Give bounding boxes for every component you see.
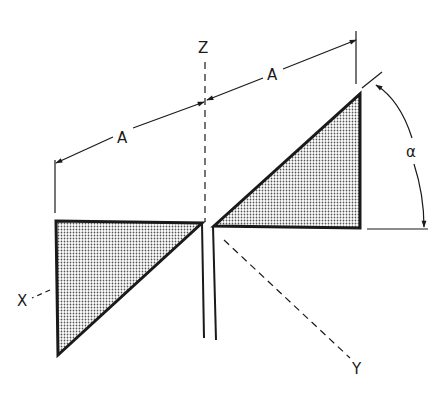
y-axis-label: Y bbox=[351, 360, 362, 378]
dimension-left-label: A bbox=[117, 129, 128, 147]
y-axis: Y bbox=[224, 240, 362, 378]
x-axis: X bbox=[17, 290, 50, 310]
dimension-right: A bbox=[207, 40, 356, 100]
z-axis-label: Z bbox=[198, 39, 208, 57]
dimension-left: A bbox=[56, 102, 204, 163]
feed-line bbox=[202, 223, 216, 340]
angle-alpha: α bbox=[362, 72, 428, 229]
left-antenna-element bbox=[56, 221, 202, 355]
angle-alpha-label: α bbox=[406, 143, 416, 161]
x-axis-label: X bbox=[17, 292, 27, 310]
dimension-right-label: A bbox=[267, 66, 278, 84]
antenna-diagram: Z X Y A A α bbox=[0, 0, 444, 394]
right-antenna-element bbox=[214, 94, 360, 228]
z-axis: Z bbox=[198, 39, 208, 222]
